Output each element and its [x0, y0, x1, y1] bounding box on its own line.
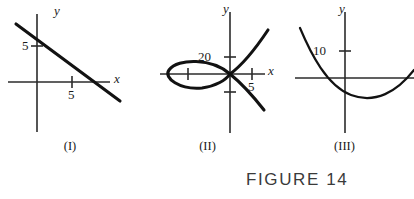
y-axis-label: y: [223, 2, 229, 15]
panel-caption-3: (III): [275, 140, 414, 153]
graph-panel-2: y x 20 5 (II): [140, 0, 275, 165]
figure-14: y x 5 5 (I) y x 20 5: [0, 0, 414, 199]
x-tick-label-5: 5: [248, 80, 255, 93]
x-tick-label-5: 5: [68, 88, 75, 101]
y-tick-label-20: 20: [198, 50, 211, 63]
y-axis-label: y: [54, 4, 60, 17]
x-axis-label: x: [268, 64, 274, 77]
loop-curve: [168, 61, 230, 88]
panel-caption-2: (II): [140, 140, 275, 153]
y-axis-label: y: [339, 2, 345, 15]
parabola-curve: [300, 28, 414, 98]
x-axis-label: x: [114, 72, 120, 85]
panel-caption-1: (I): [0, 140, 140, 153]
graph-panel-3: y 10 (III): [275, 0, 414, 165]
upper-branch-curve: [230, 30, 268, 74]
graph-panel-1: y x 5 5 (I): [0, 0, 140, 165]
y-tick-label-10: 10: [313, 44, 326, 57]
y-tick-label-5: 5: [22, 39, 29, 52]
figure-caption: FIGURE 14: [246, 170, 348, 190]
